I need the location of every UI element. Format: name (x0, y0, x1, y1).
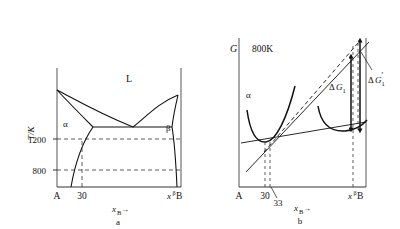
figure-svg: 1200 800 T/K A 30 x β B x B → a L α β (0, 0, 400, 229)
tangent-line-dashed-at-30 (264, 43, 358, 152)
panel-a-x-axis-label: x B → (111, 204, 129, 216)
panel-b-xtick-xbeta: x (347, 191, 352, 201)
figure-root: 1200 800 T/K A 30 x β B x B → a L α β (0, 0, 400, 229)
panel-b-xtick-b: B (357, 191, 363, 201)
panel-a-x-label-x: x (111, 204, 116, 214)
delta-g1-prime-label: Δ G ′ 1 (368, 71, 385, 87)
g-alpha-curve (247, 86, 295, 142)
panel-a-y-axis-label: T/K (26, 125, 36, 140)
xtick-label-a: A (54, 191, 61, 201)
panel-b-x-axis-label: x B → (293, 203, 311, 215)
region-label-liquid: L (126, 73, 132, 84)
panel-b-x-label-arrow: → (303, 204, 311, 213)
xtick-label-xbeta-b: x β B (166, 190, 182, 201)
temperature-annotation: 800K (252, 44, 273, 54)
panel-b-y-axis-label: G (230, 43, 237, 54)
panel-b-xtick-33: 33 (274, 198, 284, 208)
liquidus-right-curve (133, 95, 178, 127)
panel-a-caption: a (116, 217, 120, 227)
region-label-alpha: α (63, 119, 68, 129)
panel-b: G 800K α Δ G 1 Δ G ′ 1 A 30 33 x β B x B… (230, 38, 385, 226)
panel-a-x-label-arrow: → (121, 205, 129, 214)
delta-g1-label: Δ G 1 (329, 82, 346, 94)
region-label-beta: β (166, 123, 171, 133)
xtick-label-xbeta: x (166, 191, 171, 201)
panel-b-xtick-a: A (236, 191, 243, 201)
delta-g1-delta: Δ (329, 82, 335, 92)
g-alpha-curve-label: α (246, 90, 251, 100)
delta-g1-prime-mark: ′ (382, 71, 384, 80)
delta-g1-prime-delta: Δ (368, 75, 374, 85)
xtick-label-30: 30 (77, 191, 87, 201)
ytick-label-800: 800 (33, 166, 47, 176)
panel-a: 1200 800 T/K A 30 x β B x B → a L α β (26, 68, 182, 227)
panel-b-xtick-xbeta-b: x β B (347, 190, 363, 201)
panel-b-xtick-30: 30 (260, 191, 270, 201)
tick-33-leader (271, 187, 277, 198)
delta-g1-prime-subscript: 1 (382, 80, 385, 87)
solidus-beta-curve (172, 95, 178, 127)
common-tangent-line (241, 122, 366, 143)
panel-b-caption: b (298, 216, 303, 226)
xtick-label-b: B (176, 191, 182, 201)
panel-b-x-label-x: x (293, 203, 298, 213)
delta-g1-subscript: 1 (343, 87, 346, 94)
liquidus-left-curve (57, 90, 133, 127)
solvus-beta-curve (172, 127, 177, 187)
